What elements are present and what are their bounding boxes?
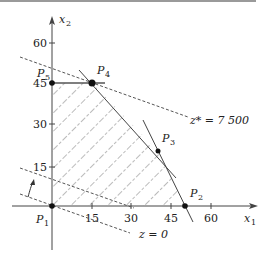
label-p5: P 5 [36, 67, 50, 82]
point-p1 [49, 203, 55, 209]
svg-text:3: 3 [170, 138, 175, 147]
svg-text:P: P [35, 213, 44, 226]
x-tick-30: 30 [124, 212, 138, 225]
svg-text:P: P [96, 64, 105, 77]
svg-text:P: P [161, 132, 170, 145]
label-p4: P 4 [96, 64, 110, 79]
label-z-optimal: z* = 7 500 [189, 114, 249, 127]
point-p4 [89, 80, 96, 87]
svg-text:1: 1 [251, 218, 256, 227]
svg-text:P: P [189, 187, 198, 200]
x1-axis-label: x 1 [244, 212, 256, 227]
point-p2 [182, 203, 188, 209]
x2-axis-label: x 2 [59, 13, 71, 28]
x-tick-60: 60 [204, 212, 218, 225]
y-tick-15: 15 [33, 161, 47, 174]
label-p2: P 2 [189, 187, 203, 202]
svg-text:x: x [59, 13, 66, 26]
x-tick-45: 45 [164, 212, 178, 225]
lp-diagram: 15 30 45 60 15 30 45 60 x 1 x 2 [0, 0, 268, 256]
svg-text:x: x [244, 212, 251, 225]
svg-text:1: 1 [44, 219, 49, 228]
increase-direction-arrow [28, 179, 35, 197]
svg-text:2: 2 [198, 193, 203, 202]
y-tick-60: 60 [33, 37, 47, 50]
svg-text:4: 4 [105, 70, 110, 79]
label-z-zero: z = 0 [138, 228, 168, 241]
x-tick-15: 15 [85, 212, 99, 225]
svg-text:P: P [36, 67, 45, 80]
label-p1: P 1 [35, 213, 49, 228]
svg-text:2: 2 [66, 19, 71, 28]
point-p3 [156, 149, 161, 154]
y-tick-30: 30 [33, 118, 47, 131]
svg-text:5: 5 [45, 73, 50, 82]
label-p3: P 3 [161, 132, 175, 147]
